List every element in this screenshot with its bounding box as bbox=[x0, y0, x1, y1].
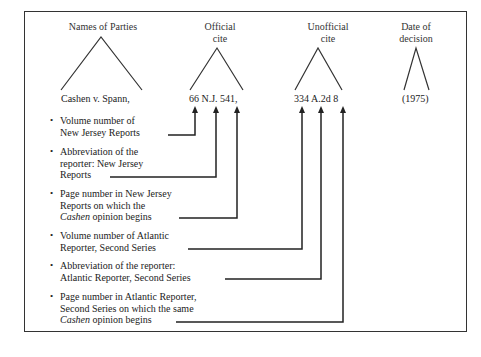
item-text: Atlantic Reporter, Second Series bbox=[60, 272, 191, 283]
item-text: Reporter, Second Series bbox=[60, 242, 156, 253]
item-text: Reports bbox=[60, 169, 91, 180]
item-text-italic: Cashen bbox=[60, 314, 90, 325]
bullet-icon: • bbox=[50, 188, 53, 200]
item-text: opinion begins bbox=[90, 211, 152, 222]
list-item-nj-volume: • Volume number of New Jersey Reports bbox=[60, 115, 140, 138]
item-text: Page number in New Jersey bbox=[60, 188, 172, 199]
list-item-a2d-volume: • Volume number of Atlantic Reporter, Se… bbox=[60, 230, 169, 253]
item-text-italic: Cashen bbox=[60, 211, 90, 222]
item-text: opinion begins bbox=[90, 314, 152, 325]
list-item-a2d-abbreviation: • Abbreviation of the reporter: Atlantic… bbox=[60, 260, 191, 283]
item-text: Volume number of Atlantic bbox=[60, 230, 169, 241]
item-text: Volume number of bbox=[60, 115, 135, 126]
bullet-icon: • bbox=[50, 291, 53, 303]
bullet-icon: • bbox=[50, 146, 53, 158]
item-text: Abbreviation of the reporter: bbox=[60, 260, 175, 271]
item-text: Abbreviation of the bbox=[60, 146, 138, 157]
item-text: reporter: New Jersey bbox=[60, 158, 143, 169]
item-text: New Jersey Reports bbox=[60, 127, 140, 138]
list-item-nj-page: • Page number in New Jersey Reports on w… bbox=[60, 188, 172, 223]
list-item-nj-abbreviation: • Abbreviation of the reporter: New Jers… bbox=[60, 146, 143, 181]
item-text: Second Series on which the same bbox=[60, 303, 194, 314]
item-text: Reports on which the bbox=[60, 200, 145, 211]
list-item-a2d-page: • Page number in Atlantic Reporter, Seco… bbox=[60, 291, 197, 326]
bullet-icon: • bbox=[50, 115, 53, 127]
item-text: Page number in Atlantic Reporter, bbox=[60, 291, 197, 302]
bullet-icon: • bbox=[50, 260, 53, 272]
bullet-icon: • bbox=[50, 230, 53, 242]
